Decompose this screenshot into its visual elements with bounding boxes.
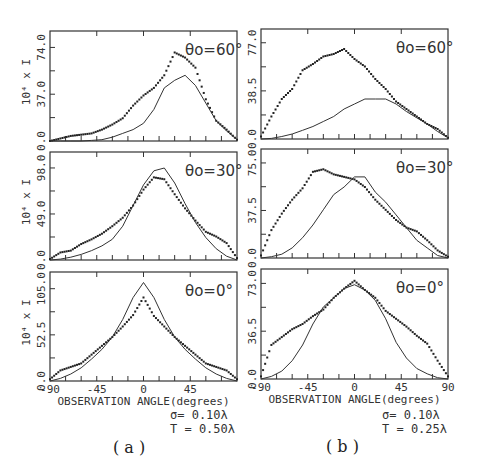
dotted-curve <box>49 296 238 380</box>
y-tick-label: 98.0 <box>35 155 48 182</box>
x-tick-label: 90 <box>441 381 454 394</box>
figure: 0.037.074.010⁴ x Iθo=60°0.049.098.010⁴ x… <box>0 0 480 475</box>
solid-curve <box>50 75 237 141</box>
y-tick-label: 0.0 <box>246 248 259 268</box>
y-tick-label: 38.5 <box>246 78 259 105</box>
x-axis-label: OBSERVATION ANGLE(degrees) <box>268 393 440 406</box>
y-tick-label: 37.5 <box>246 197 259 224</box>
angle-annotation: θo=30° <box>396 159 454 177</box>
caption-b-t: T = 0.25λ <box>382 422 447 436</box>
y-tick-label: 0.0 <box>246 129 259 149</box>
angle-annotation: θo=60° <box>396 39 454 57</box>
solid-curve <box>50 168 237 260</box>
y-tick-label: 77.0 <box>246 30 259 57</box>
y-tick-label: 73.0 <box>246 270 259 297</box>
dotted-curve <box>260 168 449 257</box>
y-axis-label: 10⁴ x I <box>20 299 33 345</box>
y-tick-label: 36.5 <box>246 318 259 345</box>
y-tick-label: 52.5 <box>35 322 48 349</box>
caption-b-sigma: σ= 0.10λ <box>382 408 440 422</box>
y-tick-label: 37.0 <box>35 81 48 108</box>
y-tick-label: 105.0 <box>35 272 48 305</box>
y-axis-label: 10⁴ x I <box>20 179 33 225</box>
angle-annotation: θo=0° <box>185 282 233 300</box>
caption-a-sigma: σ= 0.10λ <box>170 408 228 422</box>
angle-annotation: θo=60° <box>185 41 243 59</box>
dotted-curve <box>49 51 238 142</box>
y-tick-label: 0.0 <box>35 250 48 270</box>
chart-panel-a-0: 0.037.074.010⁴ x Iθo=60° <box>20 31 243 151</box>
chart-panel-a-1: 0.049.098.010⁴ x Iθo=30° <box>20 152 243 270</box>
solid-curve <box>261 99 448 139</box>
y-tick-label: 0.0 <box>35 131 48 151</box>
y-axis-label: 10⁴ x I <box>20 59 33 105</box>
y-tick-label: 49.0 <box>35 201 48 228</box>
angle-annotation: θo=0° <box>396 279 444 297</box>
chart-panel-b-0: 0.038.577.0θo=60° <box>246 29 454 149</box>
panel-label-b: ( b ) <box>326 437 359 456</box>
panel-label-a: ( a ) <box>113 438 145 457</box>
dotted-curve <box>260 48 449 139</box>
x-axis-label: OBSERVATION ANGLE(degrees) <box>57 395 229 408</box>
dotted-curve <box>49 176 238 260</box>
chart-panel-b-2: 0.036.573.0θo=0°-90-4504590OBSERVATION A… <box>246 269 455 406</box>
solid-curve <box>261 177 448 258</box>
chart-panel-a-2: 0.052.5105.010⁴ x Iθo=0°-90-45045OBSERVA… <box>20 272 238 408</box>
y-tick-label: 75.0 <box>246 150 259 177</box>
y-tick-label: 74.0 <box>35 34 48 61</box>
caption-a-t: T = 0.50λ <box>170 422 235 436</box>
chart-panel-b-1: 0.037.575.0θo=30° <box>246 149 454 268</box>
angle-annotation: θo=30° <box>185 162 243 180</box>
solid-curve <box>261 285 448 379</box>
